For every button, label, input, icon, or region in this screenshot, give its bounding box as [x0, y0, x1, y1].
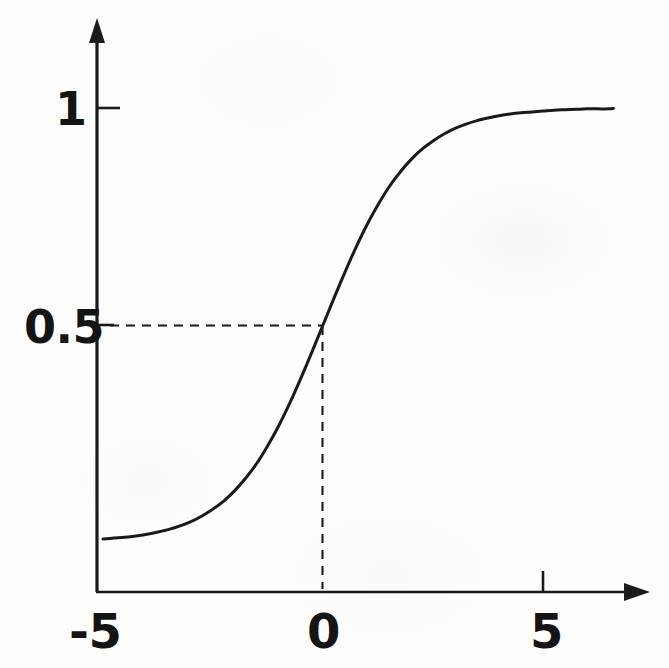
y-axis-tick-label-1: 1 — [55, 86, 87, 132]
sigmoid-curve — [103, 108, 613, 539]
y-axis-arrowhead — [89, 18, 105, 43]
guide-lines-group — [110, 326, 323, 590]
x-axis-tick-label-0: 0 — [307, 607, 340, 655]
sigmoid-figure: 1 0.5 -5 0 5 — [0, 0, 669, 668]
x-axis-tick-label-minus-5: -5 — [69, 607, 121, 655]
x-axis-arrowhead — [624, 583, 650, 601]
y-axis-tick-label-0.5: 0.5 — [24, 304, 104, 350]
axes-group — [89, 18, 650, 601]
tick-marks-group — [97, 108, 543, 592]
x-axis-tick-label-5: 5 — [530, 607, 563, 655]
